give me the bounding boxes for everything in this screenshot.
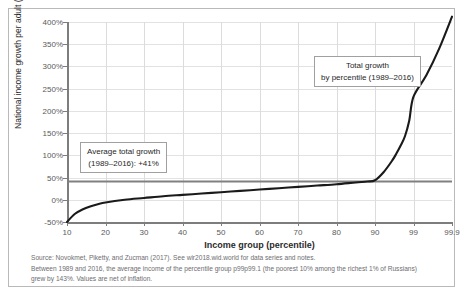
footnote-note-line-1: Between 1989 and 2016, the average incom… <box>31 264 444 275</box>
y-tick-label: 0% <box>51 195 63 204</box>
chart-figure: National income growth per adult (%) 400… <box>8 8 455 287</box>
annotation-average-total-growth: Average total growth (1989–2016): +41% <box>80 142 167 173</box>
annotation-line-2: by percentile (1989–2016) <box>321 72 414 84</box>
x-tick-label: 60 <box>255 228 264 237</box>
y-tick-label: 100% <box>43 151 63 160</box>
x-axis-title: Income group (percentile) <box>67 240 452 250</box>
y-axis-tick-labels: 400% 350% 300% 250% 200% 150% 100% 50% 0… <box>9 22 63 222</box>
x-tick-label: 99 <box>409 228 418 237</box>
x-tick-label: 50 <box>217 228 226 237</box>
x-tick-label: 30 <box>140 228 149 237</box>
x-tick-label: 99.9 <box>444 228 460 237</box>
series-plot <box>67 22 452 222</box>
x-tick-label: 10 <box>63 228 72 237</box>
plot-area <box>67 22 452 222</box>
growth-by-percentile-curve <box>67 17 452 222</box>
y-tick-label: 50% <box>47 173 63 182</box>
x-tick-mark <box>452 222 453 226</box>
x-tick-label: 80 <box>332 228 341 237</box>
y-tick-label: 300% <box>43 62 63 71</box>
annotation-line-2: (1989–2016): +41% <box>87 158 160 170</box>
annotation-total-growth-by-percentile: Total growth by percentile (1989–2016) <box>314 56 421 87</box>
x-tick-label: 70 <box>294 228 303 237</box>
x-tick-label: 90 <box>371 228 380 237</box>
y-tick-label: 150% <box>43 129 63 138</box>
footnotes: Source: Novokmet, Piketty, and Zucman (2… <box>31 253 444 285</box>
footnote-note-line-2: grew by 143%. Values are net of inflatio… <box>31 274 444 285</box>
annotation-line-1: Total growth <box>321 60 414 72</box>
y-tick-label: 250% <box>43 84 63 93</box>
annotation-line-1: Average total growth <box>87 146 160 158</box>
x-axis-tick-labels: 10 20 30 40 50 60 70 80 90 99 99.9 <box>67 224 452 238</box>
y-tick-label: 200% <box>43 106 63 115</box>
y-tick-label: 350% <box>43 40 63 49</box>
x-tick-label: 40 <box>178 228 187 237</box>
y-tick-label: -50% <box>44 218 63 227</box>
x-tick-label: 20 <box>101 228 110 237</box>
footnote-source: Source: Novokmet, Piketty, and Zucman (2… <box>31 253 444 264</box>
y-tick-label: 400% <box>43 18 63 27</box>
